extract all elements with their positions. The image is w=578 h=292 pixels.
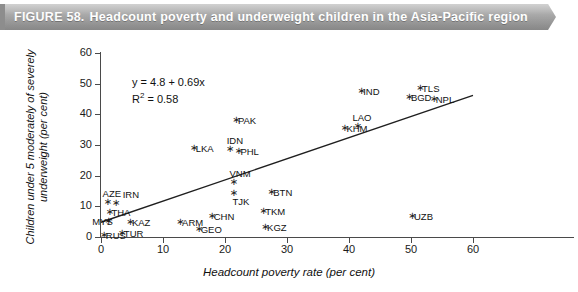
y-tick-label-40: 40 — [52, 108, 92, 119]
banner-left-edge — [0, 4, 5, 30]
y-tick-label-60: 60 — [52, 47, 92, 58]
x-tick-label-20: 20 — [205, 244, 245, 255]
point-label-tjk: TJK — [232, 197, 249, 207]
point-label-ind: IND — [363, 87, 379, 97]
y-tick-40 — [95, 114, 100, 115]
point-marker-icon — [226, 146, 232, 152]
point-label-idn: IDN — [227, 136, 243, 146]
x-tick-label-10: 10 — [143, 244, 183, 255]
point-marker-icon — [353, 123, 359, 129]
point-label-uzb: UZB — [414, 212, 433, 222]
point-marker-icon — [104, 199, 110, 205]
y-tick-30 — [95, 145, 100, 146]
point-label-lao: LAO — [352, 113, 371, 123]
x-axis-line — [100, 237, 574, 238]
point-label-mys: MYS — [92, 217, 113, 227]
point-label-tur: TUR — [124, 229, 144, 239]
point-label-arm: ARM — [182, 218, 203, 228]
y-tick-50 — [95, 84, 100, 85]
x-tick-label-60: 60 — [453, 244, 493, 255]
x-tick-label-0: 0 — [81, 244, 121, 255]
y-tick-label-10: 10 — [52, 200, 92, 211]
point-label-kaz: KAZ — [132, 218, 150, 228]
x-axis-title: Headcount poverty rate (per cent) — [0, 266, 578, 278]
point-label-btn: BTN — [273, 188, 292, 198]
point-marker-icon — [229, 179, 235, 185]
x-tick-label-40: 40 — [329, 244, 369, 255]
banner-text: FIGURE 58. Headcount poverty and underwe… — [14, 4, 528, 30]
figure-title-banner: FIGURE 58. Headcount poverty and underwe… — [0, 4, 556, 30]
y-tick-label-0: 0 — [52, 231, 92, 242]
figure-number: FIGURE 58. — [14, 10, 85, 24]
point-label-tha: THA — [111, 208, 130, 218]
regression-annotation: y = 4.8 + 0.69x R2 = 0.58 — [132, 76, 205, 106]
y-tick-label-50: 50 — [52, 78, 92, 89]
y-tick-label-30: 30 — [52, 139, 92, 150]
regression-equation: y = 4.8 + 0.69x — [132, 76, 205, 89]
point-label-geo: GEO — [201, 225, 222, 235]
point-label-chn: CHN — [214, 212, 235, 222]
x-tick-label-30: 30 — [267, 244, 307, 255]
r-squared-label: R — [132, 93, 140, 105]
point-label-bgd: BGD — [411, 93, 432, 103]
r-squared-value: = 0.58 — [147, 93, 178, 105]
y-axis-title: Children under 5 moderately of severely … — [24, 47, 50, 247]
y-tick-60 — [95, 53, 100, 54]
x-tick-label-50: 50 — [391, 244, 431, 255]
point-label-lka: LKA — [196, 144, 214, 154]
y-tick-20 — [95, 176, 100, 177]
point-label-npl: NPL — [436, 95, 454, 105]
point-label-pak: PAK — [238, 116, 256, 126]
y-tick-10 — [95, 206, 100, 207]
r-squared-line: R2 = 0.58 — [132, 89, 205, 106]
figure-container: FIGURE 58. Headcount poverty and underwe… — [0, 0, 578, 292]
point-label-kgz: KGZ — [267, 223, 287, 233]
point-label-tkm: TKM — [265, 207, 285, 217]
point-label-irn: IRN — [123, 190, 139, 200]
r-squared-exponent: 2 — [140, 91, 144, 100]
point-label-phl: PHL — [240, 147, 258, 157]
figure-title: Headcount poverty and underweight childr… — [90, 10, 528, 24]
y-tick-label-20: 20 — [52, 170, 92, 181]
point-marker-icon — [112, 200, 118, 206]
point-label-vnm: VNM — [229, 169, 250, 179]
